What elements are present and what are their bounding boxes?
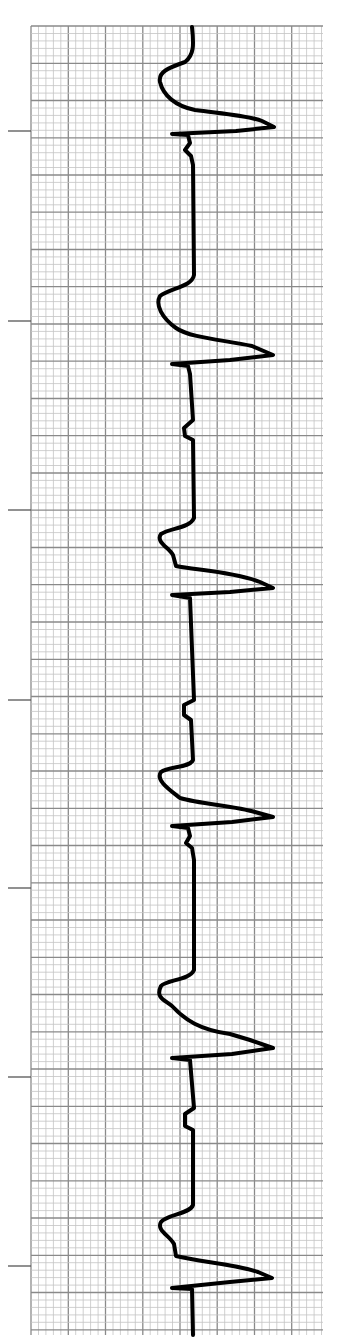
ecg-strip — [0, 0, 338, 1338]
timing-tick-marks — [8, 131, 31, 1266]
ecg-trace — [158, 27, 274, 1335]
grid-paper — [31, 26, 323, 1335]
